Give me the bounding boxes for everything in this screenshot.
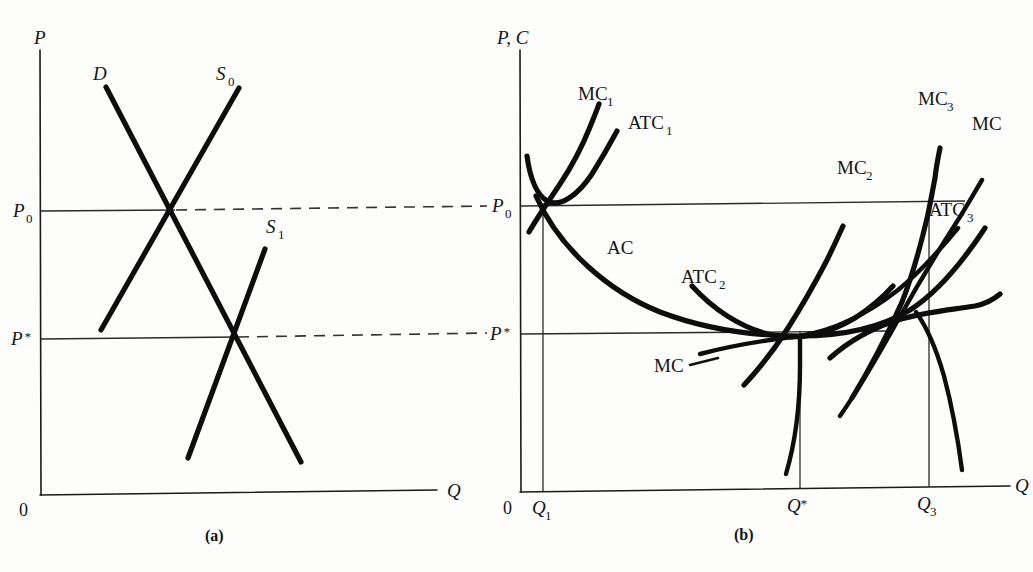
panel-b-p0-line [521, 201, 965, 206]
svg-text:P, C: P, C [496, 27, 529, 48]
connector-p0-dashed [176, 206, 487, 210]
panel-a-supply0-label: S 0 [216, 63, 235, 89]
panel-b-mc2-subscript: 2 [866, 168, 873, 183]
panel-connectors [176, 206, 487, 337]
panel-a-pstar-letter: P [10, 328, 23, 349]
panel-a-p0-letter: P [12, 200, 25, 221]
panel-a-supply0-subscript: 0 [228, 74, 235, 89]
panel-b-mc3-text: MC [918, 88, 948, 109]
panel-b-mc3-label: MC 3 [918, 88, 954, 114]
panel-b-x-axis-label: Q [1015, 475, 1029, 496]
panel-b-ac-label: AC [607, 237, 633, 258]
panel-b-q3-tick: Q 3 [917, 493, 937, 519]
panel-b-atc2-subscript: 2 [719, 277, 726, 292]
panel-b-mc1-text: MC [578, 83, 608, 104]
panel-b-qstar-letter: Q [787, 495, 801, 516]
panel-b-mc1-label: MC 1 [578, 83, 614, 109]
panel-a-caption: (a) [205, 527, 224, 545]
panel-b-p0-letter: P [491, 195, 504, 216]
panel-b-p0-subscript: 0 [505, 206, 512, 221]
panel-b-atc1-subscript: 1 [666, 123, 673, 138]
panel-a-supply1-letter: S [266, 216, 276, 237]
panel-b-pstar-tick: P * [489, 323, 510, 344]
panel-b-mc-right-label: MC [972, 113, 1002, 134]
panel-b-atc1-text: ATC [628, 112, 664, 133]
panel-a-supply1-label: S 1 [266, 216, 285, 242]
panel-a-y-axis [40, 50, 41, 495]
panel-b-mc1-curve [529, 104, 599, 232]
panel-a-x-axis-label: Q [447, 480, 461, 501]
panel-b-pstar-star: * [503, 324, 510, 339]
panel-a-supply1-curve [188, 249, 265, 458]
panel-b-q3-subscript: 3 [930, 504, 937, 519]
panel-a-p0-subscript: 0 [26, 211, 33, 226]
panel-b-qstar-star: * [800, 496, 807, 511]
panel-b-mc2-text: MC [837, 157, 867, 178]
panel-b-mc2-curve [744, 226, 843, 385]
panel-b-qstar-tick: Q * [787, 495, 807, 516]
panel-a-x-axis [40, 490, 437, 495]
connector-pstar-dashed [238, 333, 487, 337]
panel-b-q1-tick: Q 1 [532, 497, 552, 523]
panel-a-origin-label: 0 [19, 500, 28, 520]
panel-a-demand-label: D [92, 63, 107, 84]
panel-b-p0-tick: P 0 [491, 195, 512, 221]
panel-b-y-axis-label: P, C [496, 27, 529, 48]
panel-a-supply1-subscript: 1 [278, 227, 285, 242]
panel-b-atc2-text: ATC [681, 266, 717, 287]
panel-b-atc2-label: ATC 2 [681, 266, 726, 292]
panel-b-q3-letter: Q [917, 493, 931, 514]
panel-b-atc1-label: ATC 1 [628, 112, 673, 138]
panel-b-atc3-subscript: 3 [967, 210, 974, 225]
panel-b-x-axis [520, 486, 1010, 492]
panel-a-supply0-letter: S [216, 63, 226, 84]
panel-b-pstar-letter: P [489, 323, 502, 344]
panel-b-y-axis [520, 50, 521, 492]
panel-a-pstar-star: * [24, 329, 31, 344]
panel-b-q1-subscript: 1 [545, 508, 552, 523]
panel-a-y-axis-label: P [33, 27, 46, 48]
panel-b-mc3-subscript: 3 [947, 99, 954, 114]
figure-container: P Q 0 P 0 P * D S 0 S 1 (a) [0, 0, 1033, 572]
panel-b-mc-leader-line [690, 358, 718, 365]
panel-b-atc3-lower-tail [916, 312, 962, 470]
panel-a: P Q 0 P 0 P * D S 0 S 1 (a) [10, 27, 461, 545]
panel-a-pstar-tick: P * [10, 328, 31, 349]
panel-b-mc1-subscript: 1 [607, 94, 614, 109]
panel-b-q1-letter: Q [532, 497, 546, 518]
panel-a-pstar-line [41, 337, 237, 339]
panel-b-origin-label: 0 [503, 498, 512, 518]
panel-b-mc2-label: MC 2 [837, 157, 873, 183]
panel-b-mc2-lower-tail [786, 336, 800, 474]
economics-diagram: P Q 0 P 0 P * D S 0 S 1 (a) [0, 0, 1033, 572]
panel-b: P, C Q 0 P 0 P * Q 1 Q * Q 3 [489, 27, 1029, 544]
panel-b-mc-left-label: MC [654, 355, 684, 376]
panel-b-atc3-text: ATC [929, 199, 965, 220]
panel-b-caption: (b) [734, 526, 754, 544]
panel-a-p0-line [41, 210, 175, 211]
panel-a-p0-tick: P 0 [12, 200, 33, 226]
